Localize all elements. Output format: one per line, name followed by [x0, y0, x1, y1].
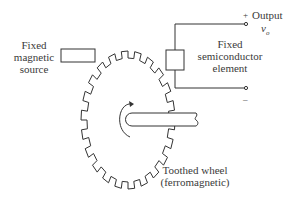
output-terminal-positive [244, 22, 247, 25]
label-line: semiconductor [191, 50, 269, 62]
semiconductor-element-block [166, 50, 184, 70]
hall-effect-sensor-diagram [0, 0, 299, 199]
output-plus-sign: + [243, 9, 248, 21]
voltage-subscript: o [266, 29, 270, 37]
magnetic-source-label: Fixed magnetic source [10, 39, 58, 75]
label-line: (ferromagnetic) [160, 176, 230, 188]
output-label: Output [252, 9, 283, 21]
output-minus-sign: – [243, 93, 248, 105]
label-line: magnetic [10, 51, 58, 63]
label-line: element [191, 62, 269, 74]
magnetic-source-block [61, 49, 95, 62]
label-line: Fixed [191, 38, 269, 50]
semiconductor-label: Fixed semiconductor element [191, 38, 269, 74]
label-line: Toothed wheel [160, 164, 230, 176]
output-voltage-symbol: vo [261, 22, 269, 39]
toothed-wheel-label: Toothed wheel (ferromagnetic) [160, 164, 230, 188]
label-line: source [10, 63, 58, 75]
output-terminal-negative [244, 86, 247, 89]
label-line: Fixed [10, 39, 58, 51]
shaft [126, 113, 198, 126]
